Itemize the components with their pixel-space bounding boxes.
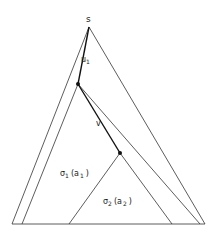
node-2 xyxy=(118,151,122,155)
node-1 xyxy=(76,82,80,86)
label-v: v xyxy=(96,119,101,128)
sigma2-triangle xyxy=(69,153,172,224)
label-sigma1: σ1(a1) xyxy=(60,169,89,179)
outer-triangle xyxy=(12,27,205,224)
label-s: s xyxy=(86,14,91,24)
label-u1: u1 xyxy=(81,55,90,65)
tree-diagram: s u1 v σ1(a1) σ2(a2) xyxy=(0,0,219,243)
label-sigma2: σ2(a2) xyxy=(103,197,132,207)
